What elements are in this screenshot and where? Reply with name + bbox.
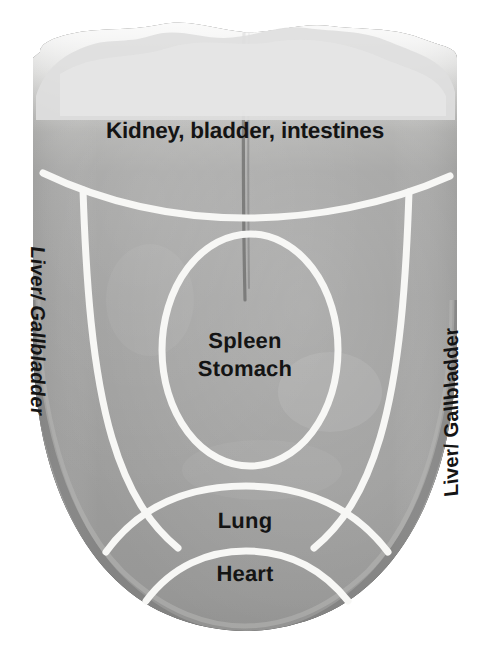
zone-label-kidney-bladder-intestines: Kidney, bladder, intestines <box>0 118 490 144</box>
zone-label-liver-gallbladder-right: Liver/ Gallbladder <box>440 326 463 498</box>
zone-label-heart: Heart <box>0 561 490 587</box>
tongue-diagnosis-diagram: Kidney, bladder, intestines Spleen Stoma… <box>0 0 490 662</box>
zone-label-spleen-stomach: Spleen Stomach <box>0 327 490 383</box>
zone-label-lung: Lung <box>0 508 490 534</box>
zone-label-stomach: Stomach <box>0 355 490 383</box>
zone-label-liver-gallbladder-left: Liver/ Gallbladder <box>26 245 49 417</box>
zone-label-spleen: Spleen <box>0 327 490 355</box>
